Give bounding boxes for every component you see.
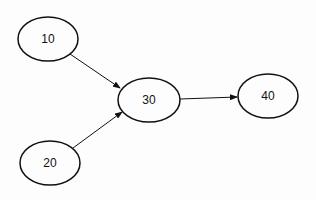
node-30-label: 30 <box>142 93 156 107</box>
flow-diagram: 10 20 30 40 <box>0 0 316 200</box>
node-20-label: 20 <box>43 156 57 170</box>
edge-30-to-40 <box>180 97 237 99</box>
node-30: 30 <box>118 78 180 122</box>
edge-10-to-30 <box>70 54 120 88</box>
edge-20-to-30 <box>73 112 122 148</box>
node-20: 20 <box>20 141 80 185</box>
node-10-label: 10 <box>41 32 55 46</box>
diagram-canvas: 10 20 30 40 <box>0 0 316 200</box>
node-40: 40 <box>238 74 298 118</box>
node-40-label: 40 <box>261 89 275 103</box>
node-10: 10 <box>18 17 78 61</box>
